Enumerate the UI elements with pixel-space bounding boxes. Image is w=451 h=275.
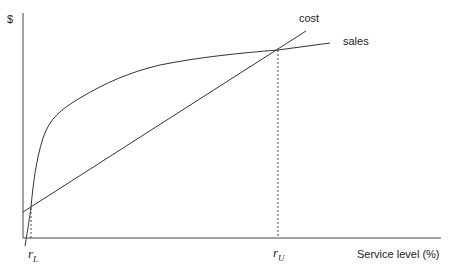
sales-label: sales bbox=[343, 35, 369, 47]
chart-canvas bbox=[0, 0, 451, 275]
cost-label: cost bbox=[299, 12, 319, 24]
sales-curve bbox=[25, 43, 330, 246]
cost-line bbox=[23, 31, 306, 212]
y-axis-label: $ bbox=[7, 13, 13, 25]
ru-tick-label: rU bbox=[273, 245, 285, 263]
x-axis-label: Service level (%) bbox=[357, 248, 440, 260]
rl-tick-label: rL bbox=[28, 246, 38, 264]
